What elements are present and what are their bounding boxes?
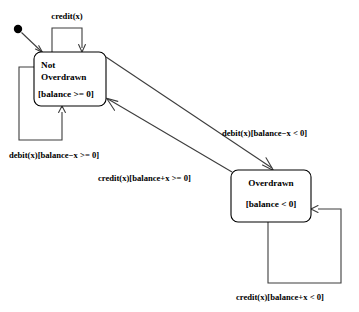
debit-to-overdrawn-label: debit(x)[balance−x < 0] bbox=[222, 128, 307, 138]
statechart-canvas: credit(x) debit(x)[balance−x >= 0] debit… bbox=[0, 0, 359, 312]
debit-self-loop-arrowhead bbox=[59, 106, 66, 113]
credit-overdrawn-self-loop-arrowhead bbox=[311, 206, 318, 213]
credit-to-not-overdrawn-label: credit(x)[balance+x >= 0] bbox=[98, 173, 191, 183]
state-not-overdrawn-name-line2: Overdrawn bbox=[41, 72, 86, 82]
state-not-overdrawn-guard: [balance >= 0] bbox=[38, 89, 94, 99]
statechart-diagram: credit(x) debit(x)[balance−x >= 0] debit… bbox=[0, 0, 359, 312]
credit-overdrawn-self-loop-label: credit(x)[balance+x < 0] bbox=[236, 292, 324, 302]
state-not-overdrawn-name-line1: Not bbox=[41, 60, 56, 70]
credit-self-loop-path bbox=[52, 28, 82, 52]
debit-to-overdrawn-arrowhead bbox=[263, 158, 274, 171]
debit-self-loop-label: debit(x)[balance−x >= 0] bbox=[9, 150, 99, 160]
state-overdrawn-name-line1: Overdrawn bbox=[248, 178, 293, 188]
credit-to-not-overdrawn-line bbox=[108, 99, 232, 172]
state-overdrawn-guard: [balance < 0] bbox=[246, 199, 297, 209]
initial-transition-line bbox=[22, 33, 43, 53]
initial-state-dot bbox=[14, 25, 22, 33]
credit-self-loop-label: credit(x) bbox=[51, 11, 82, 21]
